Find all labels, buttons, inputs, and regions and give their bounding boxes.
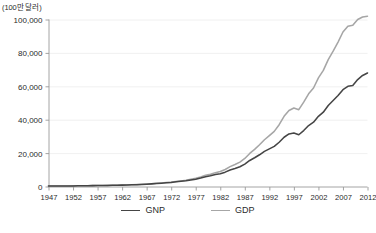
chart-legend: GNP GDP — [0, 206, 376, 215]
chart-container: (100만 달러) 020,00040,00060,00080,000100,0… — [0, 0, 376, 233]
y-tick-label: 60,000 — [18, 83, 43, 92]
legend-label-gdp: GDP — [235, 206, 255, 215]
y-tick-label: 80,000 — [18, 49, 43, 58]
x-tick-label: 1987 — [237, 193, 254, 202]
legend-entry-gnp: GNP — [121, 206, 165, 215]
x-tick-label: 1977 — [188, 193, 205, 202]
x-tick-label: 1967 — [139, 193, 156, 202]
legend-swatch-gnp-icon — [121, 210, 140, 211]
series-line-gdp — [49, 16, 368, 186]
data-series — [49, 16, 368, 186]
gridlines — [49, 20, 368, 154]
x-tick-label: 1972 — [163, 193, 180, 202]
x-tick-label: 1992 — [261, 193, 278, 202]
x-axis-tick-labels: 1947195219571962196719721977198219871992… — [41, 193, 376, 202]
x-tick-label: 1962 — [114, 193, 131, 202]
legend-label-gnp: GNP — [145, 206, 165, 215]
axes — [49, 20, 368, 188]
x-tick-label: 2007 — [335, 193, 352, 202]
y-tick-label: 20,000 — [18, 150, 43, 159]
y-tick-label: 40,000 — [18, 116, 43, 125]
x-tick-label: 1982 — [212, 193, 229, 202]
chart-plot: 020,00040,00060,00080,000100,000 1947195… — [0, 0, 376, 233]
y-tick-label: 100,000 — [14, 16, 43, 25]
x-tick-label: 1997 — [286, 193, 303, 202]
x-tick-label: 1957 — [90, 193, 107, 202]
axis-ticks — [46, 20, 369, 191]
legend-swatch-gdp-icon — [211, 210, 230, 211]
x-tick-label: 1947 — [41, 193, 58, 202]
x-tick-label: 2012 — [360, 193, 376, 202]
legend-entry-gdp: GDP — [211, 206, 255, 215]
x-tick-label: 2002 — [310, 193, 327, 202]
series-line-gnp — [49, 73, 368, 186]
y-axis-tick-labels: 020,00040,00060,00080,000100,000 — [14, 16, 43, 192]
x-tick-label: 1952 — [65, 193, 82, 202]
y-tick-label: 0 — [38, 183, 43, 192]
